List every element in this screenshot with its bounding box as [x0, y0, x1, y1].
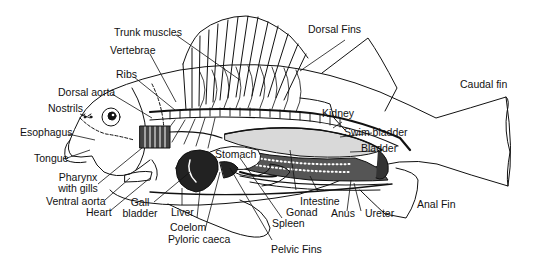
- label-stomach: Stomach: [215, 149, 256, 160]
- soft-dorsal-fin: [322, 38, 397, 111]
- label-bladder: Bladder: [361, 143, 397, 154]
- label-heart: Heart: [86, 207, 112, 218]
- label-spleen: Spleen: [272, 218, 305, 229]
- label-gall-bladder: Gall bladder: [122, 197, 158, 219]
- liver: [176, 150, 218, 192]
- label-trunk-muscles: Trunk muscles: [114, 27, 182, 38]
- fish-anatomy-diagram: Trunk muscles Dorsal Fins Vertebrae Ribs…: [0, 0, 534, 263]
- urinary-bladder: [376, 150, 388, 179]
- label-pharynx-with-gills: Pharynx with gills: [58, 172, 98, 194]
- spiny-dorsal-fin: [183, 16, 308, 110]
- label-gall-line2: bladder: [122, 207, 157, 219]
- label-anal-fin: Anal Fin: [417, 199, 456, 210]
- label-tongue: Tongue: [34, 153, 68, 164]
- label-pharynx-line2: with gills: [58, 182, 98, 194]
- label-vertebrae: Vertebrae: [110, 45, 156, 56]
- label-ureter: Ureter: [365, 208, 394, 219]
- label-ribs: Ribs: [116, 69, 137, 80]
- label-esophagus: Esophagus: [20, 127, 73, 138]
- label-anus: Anus: [331, 208, 355, 219]
- label-pelvic-fins: Pelvic Fins: [271, 244, 322, 255]
- fish-illustration: [0, 0, 534, 263]
- label-kidney: Kidney: [322, 108, 354, 119]
- label-pyloric-caeca: Pyloric caeca: [168, 234, 230, 245]
- label-coelom: Coelom: [170, 222, 206, 233]
- label-swim-bladder: Swim bladder: [344, 127, 408, 138]
- label-liver: Liver: [171, 207, 194, 218]
- label-dorsal-aorta: Dorsal aorta: [58, 87, 115, 98]
- label-nostrils: Nostrils: [48, 103, 83, 114]
- label-caudal-fin: Caudal fin: [460, 79, 507, 90]
- heart: [125, 171, 152, 182]
- label-dorsal-fins: Dorsal Fins: [308, 24, 361, 35]
